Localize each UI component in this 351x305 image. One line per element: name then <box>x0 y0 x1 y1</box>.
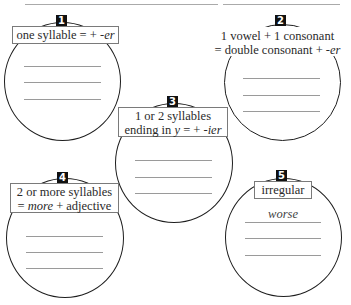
rule-line-1: 1 vowel + 1 consonant <box>213 29 342 43</box>
answer-line-1-1[interactable] <box>24 66 101 67</box>
rule-text: = + <box>180 123 203 137</box>
rule-label-2: 1 vowel + 1 consonant= double consonant … <box>212 27 343 56</box>
answer-line-2-2[interactable] <box>243 95 320 96</box>
answer-line-1-2[interactable] <box>24 82 101 83</box>
rule-text: one syllable = + <box>16 28 100 42</box>
rule-label-5: irregular <box>254 181 312 199</box>
answer-line-5-1[interactable] <box>245 222 321 223</box>
answer-line-3-1[interactable] <box>135 160 212 161</box>
number-badge-1: 1 <box>56 15 67 26</box>
rule-line-1: 2 or more syllables <box>11 185 118 199</box>
rule-text: irregular <box>261 183 304 197</box>
rule-line-2: = double consonant + -er <box>213 43 342 57</box>
answer-line-5-2[interactable] <box>245 238 321 239</box>
rule-text: ending in <box>124 123 174 137</box>
number-badge-5: 5 <box>276 170 287 181</box>
top-answer-line-left <box>25 4 218 5</box>
answer-line-2-1[interactable] <box>243 78 320 79</box>
rule-line-2: = more + adjective <box>11 199 118 213</box>
rule-text: = double consonant + <box>215 43 326 57</box>
answer-text-5-1: worse <box>245 207 321 222</box>
answer-line-4-3[interactable] <box>26 268 103 269</box>
rule-text: = <box>18 199 28 213</box>
rule-suffix: -er <box>326 43 341 57</box>
answer-line-5-3[interactable] <box>245 255 321 256</box>
answer-line-4-2[interactable] <box>26 252 103 253</box>
rule-line-2: ending in y = + -ier <box>119 123 227 137</box>
number-badge-4: 4 <box>57 172 68 183</box>
rule-line-1: 1 or 2 syllables <box>119 109 227 123</box>
answer-line-1-3[interactable] <box>24 99 101 100</box>
top-answer-line-right <box>223 4 340 5</box>
rule-suffix: -er <box>100 28 115 42</box>
answer-line-3-3[interactable] <box>135 193 212 194</box>
rule-suffix: -ier <box>203 123 221 137</box>
rule-text: + adjective <box>53 199 111 213</box>
answer-line-4-1[interactable] <box>26 236 103 237</box>
answer-line-3-2[interactable] <box>135 177 212 178</box>
rule-label-3: 1 or 2 syllablesending in y = + -ier <box>118 107 228 137</box>
number-badge-3: 3 <box>167 96 178 107</box>
answer-line-2-3[interactable] <box>243 111 320 112</box>
rule-label-4: 2 or more syllables= more + adjective <box>10 183 119 213</box>
rule-label-1: one syllable = + -er <box>12 26 119 44</box>
rule-word: more <box>28 199 53 213</box>
number-badge-2: 2 <box>275 15 286 26</box>
